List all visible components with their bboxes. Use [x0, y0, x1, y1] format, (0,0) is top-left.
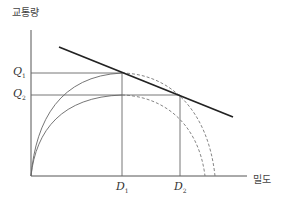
- d1-label: D1: [116, 180, 129, 194]
- traffic-flow-density-diagram: [0, 0, 282, 203]
- q2-label: Q2: [13, 87, 26, 101]
- flow-curve-q2: [31, 95, 122, 176]
- dashed-curve-inner: [122, 95, 205, 176]
- flow-curve-q1: [31, 73, 122, 176]
- x-axis-label: 밀도: [253, 171, 271, 186]
- tangent-line: [59, 47, 233, 117]
- d2-label: D2: [174, 180, 187, 194]
- dashed-curve-outer: [122, 73, 215, 176]
- y-axis-label: 교통량: [12, 4, 39, 19]
- q1-label: Q1: [13, 65, 26, 79]
